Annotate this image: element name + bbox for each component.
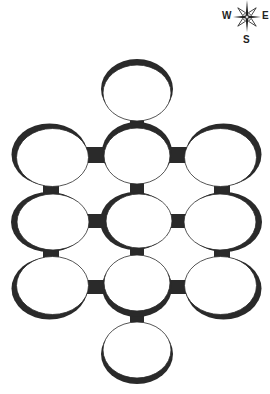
room-bottom — [101, 322, 173, 384]
dungeon-map — [0, 0, 270, 394]
room-r3-center — [102, 255, 172, 317]
compass-south-label: S — [243, 34, 250, 45]
room-r2-right — [184, 192, 262, 252]
compass-rose: W E S — [222, 0, 268, 46]
room-r2-left — [11, 192, 89, 252]
room-r2-center — [100, 192, 172, 250]
room-r1-left — [12, 124, 89, 187]
room-r3-right — [185, 257, 262, 320]
compass-east-label: E — [262, 10, 269, 21]
rooms — [11, 59, 262, 384]
room-r3-left — [12, 257, 89, 320]
room-r1-center — [102, 122, 172, 184]
compass-west-label: W — [222, 10, 231, 21]
room-r1-right — [185, 124, 262, 187]
room-top — [101, 59, 173, 121]
